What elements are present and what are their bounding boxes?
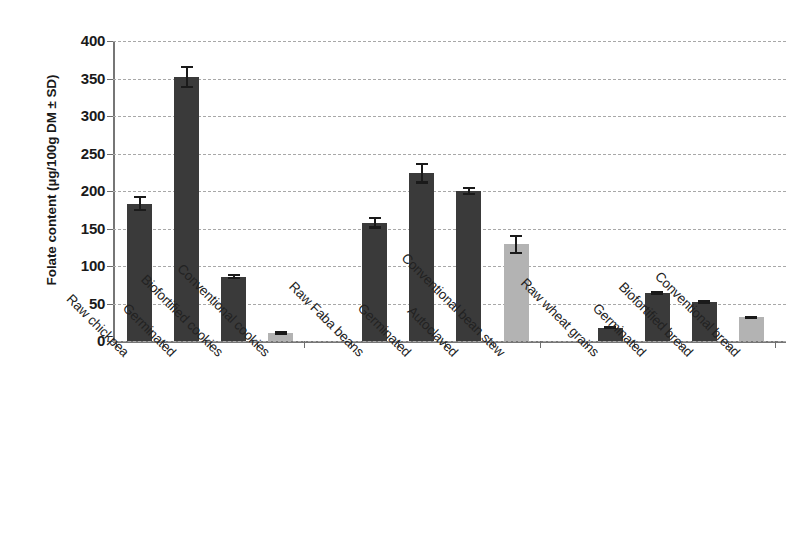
gridline	[113, 266, 786, 267]
y-axis-tick-label: 100	[59, 257, 105, 274]
x-axis-tick-labels: Raw chickpeaGerminatedBiofortified cooki…	[113, 349, 801, 534]
error-bar-cap-bottom	[651, 293, 663, 295]
y-axis-tick	[107, 41, 113, 42]
y-axis-tick-label: 400	[59, 32, 105, 49]
x-axis-tick	[304, 341, 305, 348]
y-axis-tick-label: 150	[59, 220, 105, 237]
y-axis-tick-labels: 050100150200250300350400	[55, 41, 105, 341]
error-bar-cap-bottom	[228, 277, 240, 279]
error-bar-cap-bottom	[181, 86, 193, 88]
y-axis-tick-label: 250	[59, 145, 105, 162]
y-axis-tick	[107, 116, 113, 117]
error-bar-cap-bottom	[369, 226, 381, 228]
gridline	[113, 41, 786, 42]
error-bar-cap-bottom	[416, 181, 428, 183]
y-axis-tick	[107, 266, 113, 267]
error-bar-cap-bottom	[745, 316, 757, 318]
error-bar-cap-bottom	[463, 193, 475, 195]
y-axis-tick-label: 200	[59, 182, 105, 199]
x-axis-tick	[775, 341, 776, 348]
y-axis-tick	[107, 191, 113, 192]
gridline	[113, 229, 786, 230]
error-bar-cap-top	[463, 187, 475, 189]
y-axis-tick	[107, 79, 113, 80]
gridline	[113, 79, 786, 80]
error-bar-stem	[186, 66, 188, 89]
folate-content-bar-chart: Folate content (µg/100g DM ± SD) 0501001…	[0, 0, 801, 534]
error-bar-cap-bottom	[275, 333, 287, 335]
y-axis-tick-label: 350	[59, 70, 105, 87]
y-axis-tick	[107, 229, 113, 230]
error-bar-cap-bottom	[510, 252, 522, 254]
y-axis-tick	[107, 304, 113, 305]
error-bar-cap-top	[134, 196, 146, 198]
error-bar-cap-bottom	[134, 209, 146, 211]
error-bar-cap-top	[369, 217, 381, 219]
gridline	[113, 191, 786, 192]
error-bar-cap-top	[510, 235, 522, 237]
x-axis-tick	[540, 341, 541, 348]
bar	[739, 317, 764, 341]
error-bar-cap-top	[416, 163, 428, 165]
y-axis-tick	[107, 154, 113, 155]
error-bar-cap-bottom	[698, 302, 710, 304]
error-bar-cap-top	[181, 66, 193, 68]
gridline	[113, 154, 786, 155]
gridline	[113, 116, 786, 117]
y-axis-tick-label: 300	[59, 107, 105, 124]
